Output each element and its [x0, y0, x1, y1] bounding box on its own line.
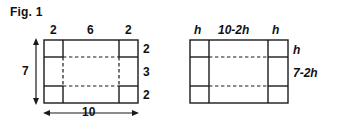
figure-container: Fig. 1 — [0, 0, 339, 131]
right-top-label-3: h — [272, 24, 279, 36]
right-horizontal-dividers — [190, 57, 288, 86]
right-right-label-2-text: 7-2h — [293, 66, 318, 80]
left-right-label-2: 3 — [143, 66, 150, 78]
right-right-label-1: h — [293, 44, 300, 56]
left-height-arrow — [33, 38, 39, 105]
left-outer-rectangle — [44, 40, 138, 103]
right-outer-rectangle — [190, 40, 288, 103]
left-right-label-3: 2 — [143, 89, 150, 101]
left-vertical-dividers — [63, 40, 119, 103]
left-horizontal-dividers — [44, 57, 138, 86]
right-top-label-3-text: h — [272, 23, 279, 37]
right-vertical-dividers — [209, 40, 268, 103]
right-horizontal-fold-lines — [209, 57, 268, 86]
left-width-label: 10 — [82, 106, 95, 118]
right-top-label-1: h — [194, 24, 201, 36]
diagram-lines-layer — [0, 0, 339, 131]
right-top-label-1-text: h — [194, 23, 201, 37]
right-top-label-2-text: 10-2h — [218, 23, 249, 37]
left-top-label-1: 2 — [50, 24, 57, 36]
right-right-label-2: 7-2h — [293, 67, 318, 79]
left-top-label-3: 2 — [125, 24, 132, 36]
left-vertical-fold-lines — [63, 57, 119, 86]
right-right-label-1-text: h — [293, 43, 300, 57]
left-right-label-1: 2 — [143, 43, 150, 55]
left-horizontal-fold-lines — [63, 57, 119, 86]
right-top-label-2: 10-2h — [218, 24, 249, 36]
left-top-label-2: 6 — [87, 24, 94, 36]
left-height-label: 7 — [22, 65, 29, 77]
